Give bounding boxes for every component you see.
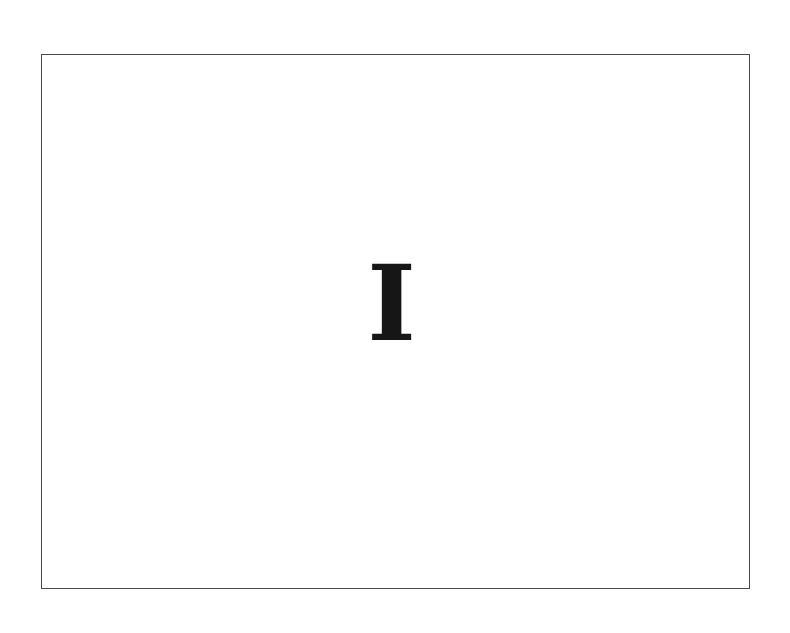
page: I — [0, 0, 790, 633]
bordered-frame: I — [41, 54, 750, 589]
letter-glyph: I — [34, 252, 749, 356]
